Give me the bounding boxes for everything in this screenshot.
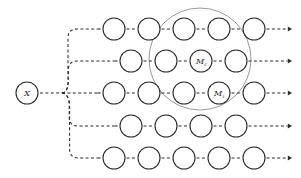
chain-node — [243, 147, 265, 169]
node-circle — [155, 50, 177, 72]
chain-node — [138, 18, 160, 40]
node-circle — [208, 147, 230, 169]
root-node-label: X — [23, 89, 30, 98]
node-circle — [225, 115, 247, 137]
chain-node — [173, 82, 195, 104]
arrow-head-icon — [288, 91, 292, 96]
node-circle — [138, 82, 160, 104]
node-circle — [243, 147, 265, 169]
chain-node — [138, 82, 160, 104]
node-circle — [190, 115, 212, 137]
node-circle — [138, 147, 160, 169]
root-node: X — [16, 82, 38, 104]
chain-node — [208, 18, 230, 40]
chain-node — [225, 50, 247, 72]
node-circle — [173, 82, 195, 104]
chain-node: Mc — [190, 50, 212, 72]
arrow-head-icon — [288, 156, 292, 161]
node-circle — [103, 147, 125, 169]
node-label: M — [213, 89, 223, 98]
node-circle — [225, 50, 247, 72]
chain-node — [155, 115, 177, 137]
arrow-head-icon — [288, 59, 292, 64]
diagram-canvas: McMiX — [0, 0, 301, 178]
chain-node — [103, 147, 125, 169]
chain-node — [120, 50, 142, 72]
diagram-svg: McMiX — [0, 0, 301, 178]
chain-node — [208, 147, 230, 169]
node-circle — [155, 115, 177, 137]
chain-node — [243, 18, 265, 40]
chain-node: Mi — [208, 82, 230, 104]
chain-node — [243, 82, 265, 104]
chain-node — [173, 147, 195, 169]
node-label-subscript: c — [204, 61, 207, 67]
node-circle — [173, 18, 195, 40]
node-circle — [243, 82, 265, 104]
chain-node — [225, 115, 247, 137]
chain-node — [138, 147, 160, 169]
arrow-head-icon — [288, 27, 292, 32]
chain-node — [173, 18, 195, 40]
node-circle — [120, 50, 142, 72]
node-circle — [120, 115, 142, 137]
chain-node — [103, 82, 125, 104]
node-circle — [243, 18, 265, 40]
node-circle — [208, 18, 230, 40]
chain-node — [155, 50, 177, 72]
arrow-head-icon — [288, 124, 292, 129]
node-circle — [173, 147, 195, 169]
node-circle — [103, 18, 125, 40]
chain-node — [190, 115, 212, 137]
node-circle — [138, 18, 160, 40]
chain-node — [103, 18, 125, 40]
chain-node — [120, 115, 142, 137]
node-circle — [103, 82, 125, 104]
